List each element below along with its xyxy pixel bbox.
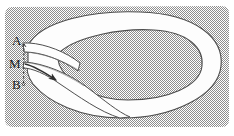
point-label-a: A xyxy=(12,34,21,47)
mobius-strip-figure: A M B xyxy=(0,0,234,136)
mobius-strip-canvas xyxy=(0,0,234,136)
point-label-b: B xyxy=(12,78,21,91)
point-label-m: M xyxy=(9,57,21,70)
